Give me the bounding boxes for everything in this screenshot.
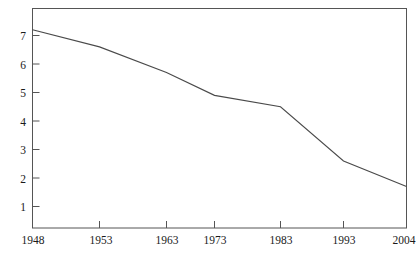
y-tick-label-7: 7	[20, 30, 26, 42]
x-tick-label-2004: 2004	[393, 234, 416, 246]
y-tick-label-5: 5	[20, 87, 26, 99]
chart-background	[0, 0, 420, 259]
x-tick-label-1948: 1948	[22, 234, 45, 246]
x-tick-label-1973: 1973	[204, 234, 227, 246]
x-tick-label-1983: 1983	[270, 234, 293, 246]
y-tick-label-3: 3	[20, 144, 26, 156]
line-chart: 7 6 5 4 3 2 1 1948 1953 1963 1973 1983 1…	[0, 0, 420, 259]
y-tick-label-2: 2	[20, 173, 26, 185]
y-tick-label-1: 1	[20, 201, 26, 213]
y-tick-label-4: 4	[20, 116, 26, 128]
chart-container: ..... 7 6 5 4 3 2 1	[0, 0, 420, 259]
x-tick-label-1963: 1963	[156, 234, 179, 246]
x-tick-label-1993: 1993	[333, 234, 356, 246]
x-tick-label-1953: 1953	[90, 234, 113, 246]
y-tick-label-6: 6	[20, 59, 26, 71]
